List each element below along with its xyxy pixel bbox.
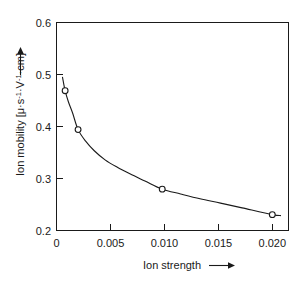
x-tick-label-2: 0.010 — [151, 237, 179, 249]
x-axis-title: Ion strength — [143, 259, 201, 271]
x-tick-label-1: 0.005 — [97, 237, 125, 249]
x-tick-label-0: 0 — [53, 237, 59, 249]
y-tick-label-3: 0.3 — [36, 173, 51, 185]
data-point — [159, 186, 165, 192]
x-tick-label-4: 0.020 — [259, 237, 287, 249]
y-axis-title-group: Ion mobility [μ·s-1·V-1·cm] — [14, 47, 26, 176]
data-point — [75, 127, 81, 133]
y-tick-label-4: 0.2 — [36, 225, 51, 237]
x-tick-label-3: 0.015 — [205, 237, 233, 249]
data-point — [62, 88, 68, 94]
data-point — [269, 212, 275, 218]
chart-figure: 0.6 0.5 0.4 0.3 0.2 0 0.005 0.010 0.015 … — [0, 0, 305, 282]
ion-mobility-line-chart: 0.6 0.5 0.4 0.3 0.2 0 0.005 0.010 0.015 … — [0, 0, 305, 282]
y-tick-label-2: 0.4 — [36, 121, 51, 133]
y-tick-label-0: 0.6 — [36, 17, 51, 29]
y-tick-label-1: 0.5 — [36, 69, 51, 81]
